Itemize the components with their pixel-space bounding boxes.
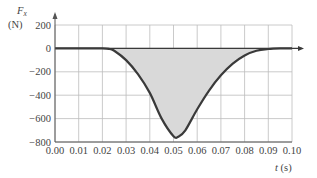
x-tick-label: 0.07 [212, 145, 230, 156]
x-tick-label: 0.05 [164, 145, 182, 156]
x-tick-label: 0.02 [93, 145, 111, 156]
x-tick-label: 0.04 [141, 145, 160, 156]
y-axis-label: Fx [16, 5, 27, 18]
x-axis-label: t (s) [275, 162, 292, 174]
y-tick-labels: 2000−200−400−600−800 [29, 20, 51, 148]
x-tick-label: 0.10 [283, 145, 301, 156]
y-axis-unit: (N) [8, 19, 23, 31]
y-tick-label: −600 [29, 113, 51, 124]
x-tick-label: 0.06 [188, 145, 206, 156]
x-tick-label: 0.09 [259, 145, 277, 156]
y-tick-label: −400 [29, 90, 51, 101]
y-tick-label: 200 [35, 20, 51, 31]
x-tick-label: 0.03 [117, 145, 135, 156]
x-tick-label: 0.01 [70, 145, 88, 156]
impulse-force-chart: 2000−200−400−600−800 0.000.010.020.030.0… [0, 0, 317, 178]
y-tick-label: 0 [46, 43, 51, 54]
x-tick-label: 0.00 [46, 145, 64, 156]
impulse-area [55, 48, 292, 138]
y-tick-label: −200 [29, 66, 51, 77]
x-tick-labels: 0.000.010.020.030.040.050.060.070.080.09… [46, 145, 301, 156]
x-tick-label: 0.08 [235, 145, 253, 156]
